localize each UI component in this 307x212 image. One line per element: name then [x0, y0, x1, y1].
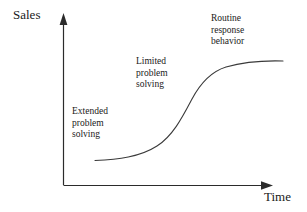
chart-plot-area: [0, 0, 307, 212]
annotation-line: solving: [136, 79, 168, 91]
annotation-routine-response-behavior: Routine response behavior: [211, 13, 244, 48]
y-axis-arrowhead-icon: [60, 13, 68, 25]
y-axis-title: Sales: [13, 8, 40, 22]
sales-time-s-curve-figure: Sales Time Extended problem solving Limi…: [0, 0, 307, 212]
annotation-line: response: [211, 25, 244, 37]
annotation-line: behavior: [211, 36, 244, 48]
annotation-extended-problem-solving: Extended problem solving: [72, 106, 108, 141]
annotation-line: solving: [72, 129, 108, 141]
sales-curve-line: [95, 61, 283, 161]
annotation-line: Extended: [72, 106, 108, 118]
annotation-limited-problem-solving: Limited problem solving: [136, 56, 168, 91]
annotation-line: Routine: [211, 13, 244, 25]
annotation-line: problem: [136, 68, 168, 80]
x-axis-title: Time: [264, 190, 291, 204]
annotation-line: problem: [72, 118, 108, 130]
annotation-line: Limited: [136, 56, 168, 68]
